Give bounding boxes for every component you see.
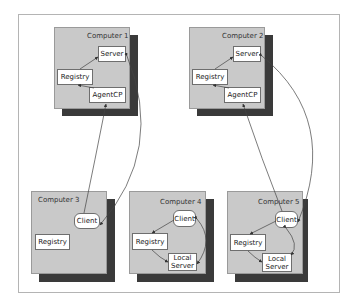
computer-2-server: Server [233, 46, 261, 62]
computer-4-client: Client [173, 210, 196, 227]
computer-1-registry: Registry [57, 69, 93, 85]
computer-4-registry: Registry [132, 233, 168, 250]
computer-3-client: Client [74, 213, 100, 229]
computer-3: Computer 3 [31, 191, 107, 274]
computer-4-label: Computer 4 [160, 198, 201, 206]
computer-3-label: Computer 3 [38, 196, 79, 204]
computer-2-label: Computer 2 [222, 32, 263, 40]
computer-5-client: Client [275, 211, 298, 228]
computer-2-agentcp: AgentCP [224, 87, 261, 103]
computer-1-server: Server [98, 46, 126, 62]
computer-2-registry: Registry [192, 69, 228, 85]
computer-5-local-server: Local Server [262, 253, 292, 272]
computer-4-local-server: Local Server [168, 253, 197, 271]
computer-5-label: Computer 5 [258, 198, 299, 206]
computer-1-label: Computer 1 [87, 32, 128, 40]
computer-1-agentcp: AgentCP [89, 87, 126, 103]
computer-5-registry: Registry [230, 234, 266, 251]
computer-3-registry: Registry [35, 234, 70, 250]
